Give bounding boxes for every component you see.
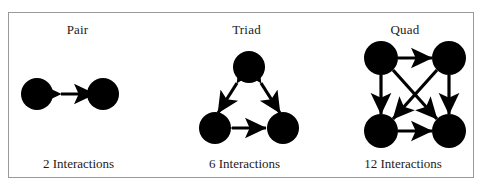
node-pair-right [87,78,119,110]
node-pair-left [21,78,53,110]
figure-root: Pair 2 Interactions Triad [0,0,483,191]
node-quad-top-right [432,41,466,75]
panel-triad: Triad 6 Interactions [164,13,319,179]
node-quad-bottom-left [364,114,398,148]
node-quad-top-left [364,41,398,75]
node-triad-bottom-left [199,112,231,144]
edge-triad-top-bottomleft [218,83,237,113]
figure-frame: Pair 2 Interactions Triad [8,12,474,178]
node-quad-bottom-right [432,114,466,148]
triad-graph [164,13,319,179]
panel-quad: Quad [319,13,475,179]
pair-graph [9,13,164,179]
panel-caption-pair: 2 Interactions [1,157,156,171]
edge-triad-top-bottomright [261,83,280,113]
panel-pair: Pair 2 Interactions [9,13,164,179]
panel-caption-quad: 12 Interactions [325,157,481,171]
node-triad-bottom-right [267,112,299,144]
panel-caption-triad: 6 Interactions [167,157,322,171]
quad-graph [319,13,475,179]
node-triad-top [233,51,265,83]
